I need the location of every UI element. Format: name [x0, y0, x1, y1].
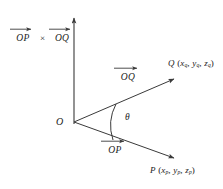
vector-arrow-overbar-op-cross: [10, 26, 36, 33]
vector-label-oq-text: OQ: [121, 73, 135, 83]
point-label-p: P (xp, yp, zp): [150, 166, 195, 176]
vector-label-op: OP: [101, 138, 129, 156]
vector-cross-product-figure: OP × OQ OQ OP O θ: [0, 0, 223, 189]
cross-operator-symbol: ×: [36, 34, 49, 43]
vector-arrow-overbar-oq: [114, 65, 142, 72]
cross-first-vector: OP: [10, 26, 36, 44]
vector-label-oq: OQ: [114, 65, 142, 83]
vector-oq-line: [74, 79, 174, 122]
vector-arrow-overbar-op: [101, 138, 129, 145]
vector-arrow-overbar-oq-cross: [49, 26, 75, 33]
origin-label: O: [56, 117, 63, 127]
cross-second-vector-label: OQ: [55, 34, 69, 44]
point-label-q: Q (xq, yq, zq): [168, 59, 214, 69]
angle-arc: [111, 104, 116, 140]
cross-product-label: OP × OQ: [10, 26, 75, 44]
point-label-q-name: Q: [168, 58, 175, 68]
angle-theta-label: θ: [125, 113, 130, 123]
cross-first-vector-label: OP: [16, 34, 29, 44]
cross-second-vector: OQ: [49, 26, 75, 44]
vector-label-op-text: OP: [108, 146, 121, 156]
